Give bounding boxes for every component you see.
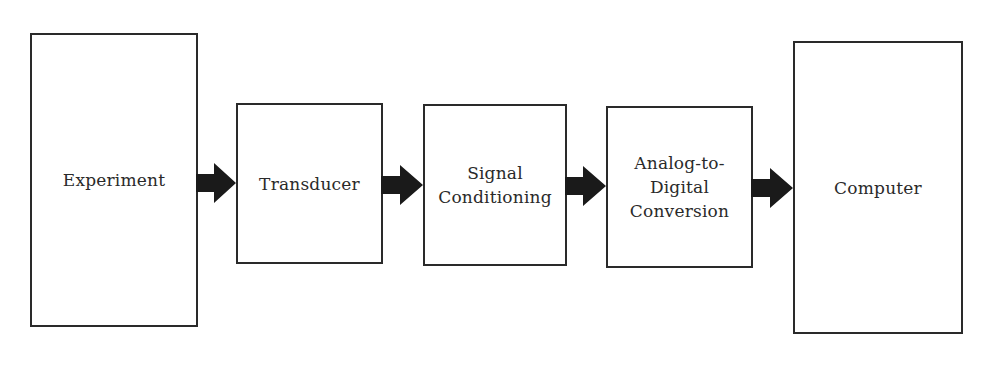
right-arrow-icon — [565, 165, 607, 207]
block-label-adc: Analog-to- Digital Conversion — [630, 151, 729, 223]
block-signal-conditioning: Signal Conditioning — [423, 104, 567, 266]
right-arrow-icon — [751, 167, 794, 209]
block-label-signal-conditioning: Signal Conditioning — [438, 161, 552, 209]
block-label-transducer: Transducer — [259, 172, 360, 196]
block-transducer: Transducer — [236, 103, 383, 264]
block-experiment: Experiment — [30, 33, 198, 327]
right-arrow-icon — [381, 164, 424, 206]
right-arrow-icon — [196, 162, 238, 204]
block-computer: Computer — [793, 41, 963, 334]
block-label-experiment: Experiment — [63, 168, 165, 192]
block-adc: Analog-to- Digital Conversion — [606, 106, 753, 268]
block-label-computer: Computer — [834, 176, 922, 200]
